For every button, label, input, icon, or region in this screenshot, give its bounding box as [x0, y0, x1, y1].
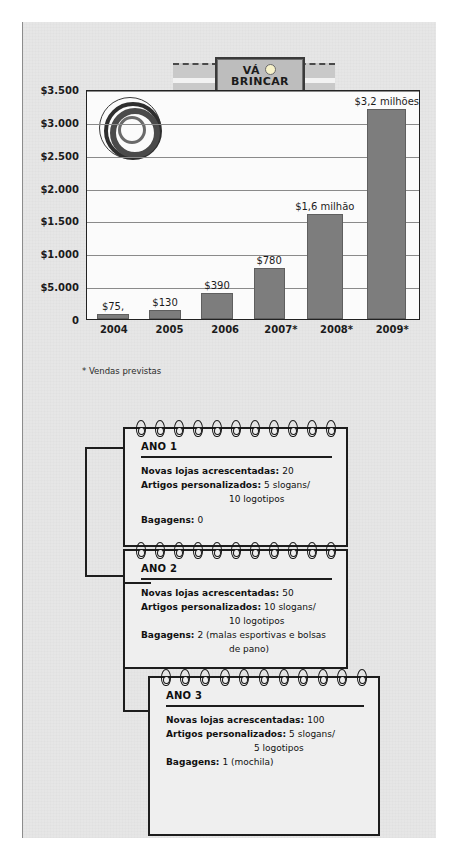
spiral-ring-icon [307, 420, 317, 437]
spiral-ring-icon [259, 669, 269, 686]
spiral-ring-icon [180, 669, 190, 686]
bar [97, 314, 128, 319]
y-axis-tick-label: $2.000 [0, 189, 79, 200]
card-row: Bagagens: 2 (malas esportivas e bolsas [141, 629, 346, 641]
card-row-label: Novas lojas acrescentadas: [166, 715, 307, 725]
card-row-value: 0 [198, 515, 204, 525]
card-connector [123, 582, 151, 712]
bar-column: $75, [87, 91, 139, 319]
x-axis-tick-label: 2006 [197, 324, 253, 335]
spiral-ring-icon [136, 420, 146, 437]
card-title: ANO 2 [141, 563, 346, 574]
spiral-ring-icon [193, 420, 203, 437]
bar-value-label: $3,2 milhões [354, 96, 419, 107]
card-row-value: 100 [307, 715, 324, 725]
spiral-ring-icon [269, 542, 279, 559]
spiral-ring-icon [136, 542, 146, 559]
card-row-value: 20 [282, 466, 293, 476]
card-row-value: 5 logotipos [254, 743, 304, 753]
y-axis-tick-label: $3.000 [0, 123, 79, 134]
notepad-card-ano-2: ANO 2Novas lojas acrescentadas: 50Artigo… [123, 549, 348, 669]
y-axis-tick-label: $5.000 [0, 287, 79, 298]
card-row: Artigos personalizados: 5 slogans/ [166, 728, 378, 740]
card-connector [85, 447, 125, 577]
y-axis-tick-label: $1.000 [0, 254, 79, 265]
y-axis-tick-label: $2.500 [0, 156, 79, 167]
x-axis-tick-label: 2008* [309, 324, 365, 335]
spiral-ring-icon [250, 420, 260, 437]
x-axis-tick-label: 2007* [253, 324, 309, 335]
x-axis-tick-label: 2004 [86, 324, 142, 335]
spiral-ring-icon [288, 542, 298, 559]
card-row: Bagagens: 1 (mochila) [166, 756, 378, 768]
card-row-value: 50 [282, 588, 293, 598]
x-axis-tick-label: 2009* [364, 324, 420, 335]
spiral-ring-icon [307, 542, 317, 559]
spiral-ring-icon [155, 542, 165, 559]
spiral-ring-icon [326, 420, 336, 437]
chart-x-axis: 2004200520062007*2008*2009* [86, 324, 420, 335]
spiral-ring-icon [200, 669, 210, 686]
spiral-ring-icon [269, 420, 279, 437]
card-row: Artigos personalizados: 5 slogans/ [141, 479, 346, 491]
spiral-ring-icon [174, 542, 184, 559]
spiral-ring-icon [250, 542, 260, 559]
spiral-ring-icon [298, 669, 308, 686]
card-row-value: de pano) [229, 644, 269, 654]
spiral-ring-icon [337, 669, 347, 686]
card-row-label: Novas lojas acrescentadas: [141, 588, 282, 598]
bar-column: $1,6 milhão [295, 91, 354, 319]
bar [307, 214, 343, 319]
card-row-label: Artigos personalizados: [141, 480, 264, 490]
card-title: ANO 1 [141, 441, 346, 452]
card-title: ANO 3 [166, 690, 378, 701]
card-row-value: 2 (malas esportivas e bolsas [198, 630, 327, 640]
bar-value-label: $75, [102, 301, 124, 312]
card-row-label: Novas lojas acrescentadas: [141, 466, 282, 476]
chart-footnote: * Vendas previstas [82, 366, 161, 376]
spiral-ring-icon [288, 420, 298, 437]
card-row: Novas lojas acrescentadas: 100 [166, 714, 378, 726]
card-row: de pano) [229, 643, 346, 655]
bar [367, 109, 406, 319]
spiral-ring-icon [239, 669, 249, 686]
x-axis-tick-label: 2005 [142, 324, 198, 335]
spiral-ring-icon [212, 420, 222, 437]
card-row-label: Bagagens: [166, 757, 223, 767]
spiral-ring-icon [231, 542, 241, 559]
spiral-ring-icon [220, 669, 230, 686]
bar-value-label: $780 [256, 255, 281, 266]
bar-column: $3,2 milhões [354, 91, 419, 319]
spiral-ring-icon [155, 420, 165, 437]
notepad-card-ano-1: ANO 1Novas lojas acrescentadas: 20Artigo… [123, 427, 348, 547]
card-row: 10 logotipos [229, 615, 346, 627]
card-row-value: 5 slogans/ [289, 729, 335, 739]
bar-value-label: $1,6 milhão [295, 201, 354, 212]
card-row-value: 1 (mochila) [223, 757, 274, 767]
card-row-value: 10 logotipos [229, 494, 284, 504]
spiral-ring-icon [174, 420, 184, 437]
card-row: Novas lojas acrescentadas: 20 [141, 465, 346, 477]
spiral-ring-icon [161, 669, 171, 686]
spiral-ring-icon [231, 420, 241, 437]
card-row-label: Artigos personalizados: [141, 602, 264, 612]
card-row-value: 5 slogans/ [264, 480, 310, 490]
chart-bars: $75,$130$390$780$1,6 milhão$3,2 milhões [87, 91, 419, 319]
card-row-label: Bagagens: [141, 515, 198, 525]
card-row-label: Artigos personalizados: [166, 729, 289, 739]
card-divider [166, 705, 364, 707]
y-axis-tick-label: $1.500 [0, 221, 79, 232]
card-row: Novas lojas acrescentadas: 50 [141, 587, 346, 599]
spiral-binding [125, 542, 346, 558]
page-sheet: VÁ BRINCAR AO AR LIVRE $75,$130$390$780$… [22, 22, 436, 838]
bar-column: $780 [243, 91, 295, 319]
notepad-card-ano-3: ANO 3Novas lojas acrescentadas: 100Artig… [148, 676, 380, 836]
card-row-value: 10 logotipos [229, 616, 284, 626]
bar-column: $390 [191, 91, 243, 319]
card-divider [141, 578, 332, 580]
card-row-value: 10 slogans/ [264, 602, 316, 612]
spiral-binding [150, 669, 378, 685]
y-axis-tick-label: 0 [0, 320, 79, 331]
spiral-ring-icon [193, 542, 203, 559]
spiral-ring-icon [318, 669, 328, 686]
